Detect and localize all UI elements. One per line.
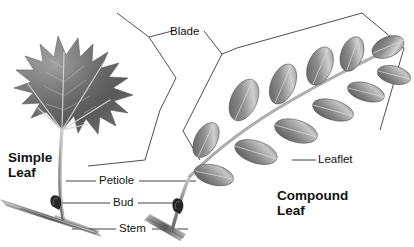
simple-leaf-twig	[0, 199, 102, 237]
leaflet	[187, 118, 224, 162]
label-simple-leaf-line2: Leaf	[8, 165, 36, 181]
diagram-artwork	[0, 0, 414, 247]
leaflet	[272, 114, 320, 147]
leaflet	[232, 135, 281, 170]
label-compound-leaf-line1: Compound	[277, 188, 348, 204]
label-stem: Stem	[119, 222, 146, 236]
label-simple-leaf-line1: Simple	[8, 150, 52, 166]
leaflet	[336, 33, 369, 74]
leaflet	[375, 62, 412, 88]
leaflet	[223, 75, 265, 126]
leaflet	[264, 60, 302, 108]
compound-leaf-twig	[144, 214, 186, 241]
leaflet	[301, 43, 338, 89]
leaflet	[310, 95, 356, 126]
label-bud: Bud	[113, 196, 133, 210]
leaflet	[192, 160, 236, 189]
simple-leaf-bud	[50, 195, 61, 210]
label-compound-leaf-line2: Leaf	[277, 203, 305, 219]
label-blade: Blade	[170, 25, 199, 39]
leaflet	[345, 78, 386, 106]
leaflet	[368, 31, 407, 63]
label-petiole: Petiole	[99, 174, 134, 188]
simple-leaf-blade	[14, 36, 133, 134]
leaf-anatomy-diagram: Blade Leaflet Petiole Bud Stem Simple Le…	[0, 0, 414, 247]
label-leaflet: Leaflet	[318, 153, 353, 167]
compound-leaf-bud	[172, 198, 183, 214]
compound-leaf-rachis	[190, 45, 400, 176]
